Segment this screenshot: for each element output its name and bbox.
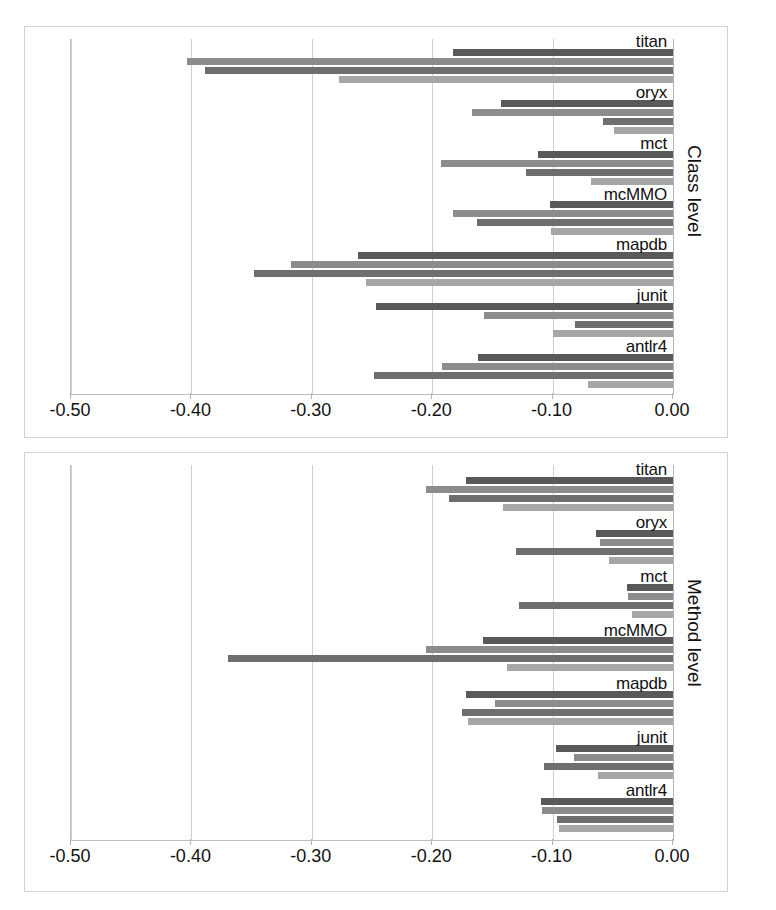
bar-group-mct: mct (71, 572, 673, 626)
bar-group-mapdb: mapdb (71, 242, 673, 293)
bar-mapdb-series2 (495, 700, 673, 707)
x-tick-label: -0.10 (531, 399, 572, 421)
bar-mapdb-series3 (462, 709, 673, 716)
bar-mct-series4 (632, 611, 673, 618)
x-tick-label: -0.20 (411, 845, 452, 867)
bar-antlr4-series2 (542, 807, 673, 814)
bar-group-mct: mct (71, 140, 673, 191)
bar-group-titan: titan (71, 465, 673, 519)
bar-oryx-series2 (472, 109, 673, 116)
bar-titan-series2 (187, 58, 673, 65)
bar-mct-series2 (441, 160, 673, 167)
bar-group-oryx: oryx (71, 90, 673, 141)
x-axis-ticks-class-level: -0.50-0.40-0.30-0.20-0.100.00 (70, 399, 674, 423)
axis-title-class-level: Class level (683, 145, 705, 237)
bar-junit-series2 (574, 754, 673, 761)
x-tick-label: -0.10 (531, 845, 572, 867)
bar-oryx-series4 (609, 557, 673, 564)
bar-oryx-series3 (603, 118, 673, 125)
bar-titan-series2 (426, 486, 673, 493)
x-tick-label: -0.30 (290, 399, 331, 421)
x-tick-label: -0.40 (170, 399, 211, 421)
x-tick-label: -0.50 (49, 399, 90, 421)
category-label-titan: titan (636, 33, 667, 50)
bar-mcmmo-series4 (507, 664, 673, 671)
bar-titan-series3 (205, 67, 673, 74)
bar-group-mapdb: mapdb (71, 679, 673, 733)
bar-mcmmo-series2 (426, 646, 673, 653)
x-tick-label: -0.30 (290, 845, 331, 867)
bar-group-mcmmo: mcMMO (71, 626, 673, 680)
gridline-0.00 (673, 465, 674, 840)
bar-junit-series4 (553, 330, 673, 337)
bar-group-antlr4: antlr4 (71, 786, 673, 840)
chart-panel-class-level: antlr4junitmapdbmcMMOmctoryxtitan -0.50-… (24, 26, 728, 438)
bar-oryx-series4 (614, 127, 673, 134)
bar-antlr4-series4 (559, 825, 673, 832)
bar-junit-series3 (544, 763, 673, 770)
bar-mcmmo-series2 (453, 210, 673, 217)
bar-titan-series3 (449, 495, 673, 502)
x-tick-label: -0.40 (170, 845, 211, 867)
bar-mcmmo-series4 (551, 228, 673, 235)
bar-junit-series3 (575, 321, 673, 328)
bar-oryx-series3 (516, 548, 673, 555)
bar-mct-series4 (591, 178, 673, 185)
figure-page: antlr4junitmapdbmcMMOmctoryxtitan -0.50-… (0, 0, 776, 910)
gridline-0.00 (673, 39, 674, 394)
x-axis-ticks-method-level: -0.50-0.40-0.30-0.20-0.100.00 (70, 845, 674, 869)
bar-mcmmo-series3 (228, 655, 673, 662)
bar-junit-series1 (376, 303, 673, 310)
bar-mapdb-series3 (254, 270, 673, 277)
bar-group-mcmmo: mcMMO (71, 191, 673, 242)
bar-group-junit: junit (71, 733, 673, 787)
bar-groups-class-level: antlr4junitmapdbmcMMOmctoryxtitan (71, 39, 673, 394)
bar-mct-series3 (519, 602, 673, 609)
bar-mapdb-series4 (468, 718, 673, 725)
plot-area-method-level: antlr4junitmapdbmcMMOmctoryxtitan (70, 465, 674, 841)
bar-titan-series4 (503, 504, 673, 511)
bar-group-titan: titan (71, 39, 673, 90)
bar-group-antlr4: antlr4 (71, 343, 673, 394)
bar-mct-series2 (628, 593, 673, 600)
bar-antlr4-series4 (588, 381, 673, 388)
bar-group-junit: junit (71, 293, 673, 344)
bar-mapdb-series2 (291, 261, 673, 268)
x-tick-label: 0.00 (654, 399, 689, 421)
bar-mapdb-series4 (366, 279, 673, 286)
bar-titan-series4 (339, 76, 673, 83)
bar-group-oryx: oryx (71, 519, 673, 573)
axis-title-method-level: Method level (683, 579, 705, 687)
bar-junit-series2 (484, 312, 673, 319)
x-tick-label: 0.00 (654, 845, 689, 867)
bar-antlr4-series3 (557, 816, 673, 823)
category-label-titan: titan (636, 461, 667, 478)
bar-mct-series3 (526, 169, 673, 176)
x-tick-label: -0.50 (49, 845, 90, 867)
plot-area-class-level: antlr4junitmapdbmcMMOmctoryxtitan (70, 39, 674, 395)
chart-panel-method-level: antlr4junitmapdbmcMMOmctoryxtitan -0.50-… (24, 452, 728, 892)
bar-mcmmo-series3 (477, 219, 673, 226)
bar-oryx-series2 (600, 539, 673, 546)
bar-antlr4-series2 (442, 363, 673, 370)
x-tick-label: -0.20 (411, 399, 452, 421)
bar-junit-series4 (598, 772, 673, 779)
bar-antlr4-series3 (374, 372, 673, 379)
bar-groups-method-level: antlr4junitmapdbmcMMOmctoryxtitan (71, 465, 673, 840)
